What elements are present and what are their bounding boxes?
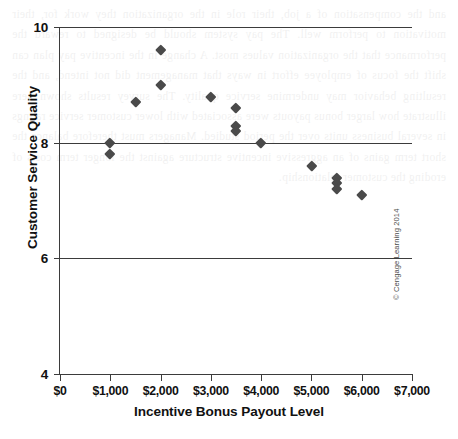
x-tick-1000 [110, 374, 111, 381]
data-point [130, 97, 141, 108]
y-tick-label-4: 4 [8, 367, 48, 382]
y-axis-title: Customer Service Quality [25, 53, 40, 283]
data-point [155, 45, 166, 56]
data-point [105, 149, 116, 160]
x-tick-6000 [362, 374, 363, 381]
data-point [231, 126, 242, 137]
x-tick-7000 [412, 374, 413, 381]
x-tick-0 [60, 374, 61, 381]
gridline-y-10 [60, 27, 412, 28]
y-tick-10 [54, 27, 65, 28]
x-tick-2000 [161, 374, 162, 381]
data-point [205, 91, 216, 102]
x-tick-4000 [261, 374, 262, 381]
x-tick-5000 [311, 374, 312, 381]
x-tick-label-7000: $7,000 [377, 384, 447, 398]
data-point [256, 137, 267, 148]
y-tick-6 [54, 258, 65, 259]
x-tick-3000 [211, 374, 212, 381]
data-point [231, 103, 242, 114]
data-point [155, 79, 166, 90]
copyright-credit: © Cengage Learning 2014 [392, 160, 401, 300]
x-axis-title: Incentive Bonus Payout Level [0, 404, 458, 419]
scatter-chart-figure: 10 8 6 4 $0 $1,000 $2,000 $3,000 $4,000 … [0, 0, 458, 439]
data-point [105, 137, 116, 148]
data-point [356, 189, 367, 200]
data-point [306, 160, 317, 171]
y-tick-8 [54, 143, 65, 144]
axis-baseline-y-4 [60, 374, 412, 375]
y-tick-label-10: 10 [8, 20, 48, 35]
plot-area [60, 27, 412, 374]
gridline-y-6 [60, 258, 412, 259]
